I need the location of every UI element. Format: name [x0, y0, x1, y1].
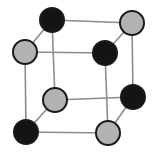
atom-front-bottom-left: [14, 120, 38, 144]
atom-front-top-left: [13, 40, 37, 64]
atom-back-bottom-right: [121, 85, 145, 109]
atom-back-bottom-left: [43, 88, 67, 112]
atom-back-top-right: [120, 11, 144, 35]
lattice-canvas: [0, 0, 162, 159]
cubic-unit-cell-figure: [0, 0, 162, 159]
atom-front-top-right: [93, 41, 117, 65]
atom-front-bottom-right: [96, 121, 120, 145]
atom-back-top-left: [40, 8, 64, 32]
